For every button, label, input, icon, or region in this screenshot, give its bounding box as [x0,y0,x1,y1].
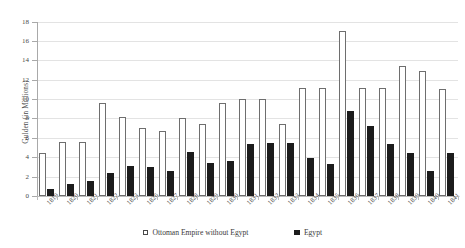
bar-ottoman-empire-without-egypt [159,131,166,196]
y-tick-mark [32,60,37,61]
y-tick-mark [32,138,37,139]
x-tick-mark [278,196,279,200]
bar-group [298,22,318,197]
bar-group [97,22,117,197]
bar-group [358,22,378,197]
y-tick-label: 2 [26,173,30,181]
bar-ottoman-empire-without-egypt [319,88,326,196]
bar-group [378,22,398,197]
y-tick-label: 12 [22,76,29,84]
bar-chart: Gulden (in Millions) Ottoman Empire with… [0,0,465,248]
bar-ottoman-empire-without-egypt [419,71,426,196]
x-tick-mark [338,196,339,200]
y-tick-label: 10 [22,95,29,103]
bar-group [137,22,157,197]
y-tick-mark [32,22,37,23]
x-tick-mark [418,196,419,200]
bar-group [398,22,418,197]
x-tick-mark [117,196,118,200]
bar-group [438,22,458,197]
bar-ottoman-empire-without-egypt [239,99,246,196]
bar-ottoman-empire-without-egypt [139,128,146,196]
x-tick-mark [37,196,38,200]
x-tick-mark [177,196,178,200]
bar-egypt [287,143,294,196]
y-tick-label: 14 [22,56,29,64]
bars-container [37,22,458,197]
bar-group [217,22,237,197]
bar-ottoman-empire-without-egypt [199,124,206,196]
bar-ottoman-empire-without-egypt [219,103,226,196]
y-tick-mark [32,80,37,81]
legend-label: Egypt [304,228,322,237]
bar-ottoman-empire-without-egypt [99,103,106,196]
y-tick-label: 8 [26,114,30,122]
bar-group [197,22,217,197]
y-tick-mark [32,41,37,42]
bar-group [117,22,137,197]
bar-group [278,22,298,197]
bar-group [37,22,57,197]
bar-egypt [447,153,454,196]
legend-entry: Egypt [294,228,322,237]
bar-egypt [247,144,254,196]
x-tick-mark [237,196,238,200]
legend-entry: Ottoman Empire without Egypt [143,228,248,237]
bar-egypt [207,163,214,196]
bar-ottoman-empire-without-egypt [399,66,406,196]
bar-ottoman-empire-without-egypt [79,142,86,196]
y-tick-mark [32,157,37,158]
bar-group [237,22,257,197]
bar-egypt [327,164,334,196]
bar-group [258,22,278,197]
y-tick-label: 4 [26,153,30,161]
y-tick-label: 0 [26,192,30,200]
x-tick-mark [438,196,439,200]
bar-egypt [407,153,414,196]
bar-group [418,22,438,197]
y-tick-mark [32,99,37,100]
bar-ottoman-empire-without-egypt [59,142,66,196]
bar-ottoman-empire-without-egypt [439,89,446,196]
bar-egypt [387,144,394,196]
chart-legend: Ottoman Empire without EgyptEgypt [0,228,465,237]
x-tick-mark [398,196,399,200]
y-tick-mark [32,177,37,178]
bar-group [177,22,197,197]
bar-group [157,22,177,197]
x-tick-mark [258,196,259,200]
legend-label: Ottoman Empire without Egypt [152,228,248,237]
x-tick-mark [197,196,198,200]
bar-ottoman-empire-without-egypt [39,153,46,196]
x-tick-mark [77,196,78,200]
x-tick-mark [97,196,98,200]
bar-ottoman-empire-without-egypt [339,31,346,196]
bar-group [318,22,338,197]
bar-egypt [367,126,374,196]
x-tick-mark [137,196,138,200]
bar-ottoman-empire-without-egypt [259,99,266,196]
bar-ottoman-empire-without-egypt [119,117,126,196]
legend-swatch-icon [143,230,149,236]
bar-group [77,22,97,197]
y-tick-label: 18 [22,18,29,26]
bar-egypt [307,158,314,196]
bar-ottoman-empire-without-egypt [379,88,386,196]
x-tick-mark [318,196,319,200]
y-tick-mark [32,118,37,119]
x-tick-mark [378,196,379,200]
bar-group [57,22,77,197]
x-tick-mark [157,196,158,200]
bar-ottoman-empire-without-egypt [359,88,366,196]
x-tick-mark [458,196,459,200]
bar-egypt [267,143,274,196]
y-tick-label: 6 [26,134,30,142]
bar-ottoman-empire-without-egypt [279,124,286,196]
legend-swatch-icon [294,230,300,236]
x-tick-mark [358,196,359,200]
y-tick-label: 16 [22,37,29,45]
bar-egypt [347,111,354,196]
bar-egypt [187,152,194,196]
bar-ottoman-empire-without-egypt [179,118,186,196]
bar-group [338,22,358,197]
